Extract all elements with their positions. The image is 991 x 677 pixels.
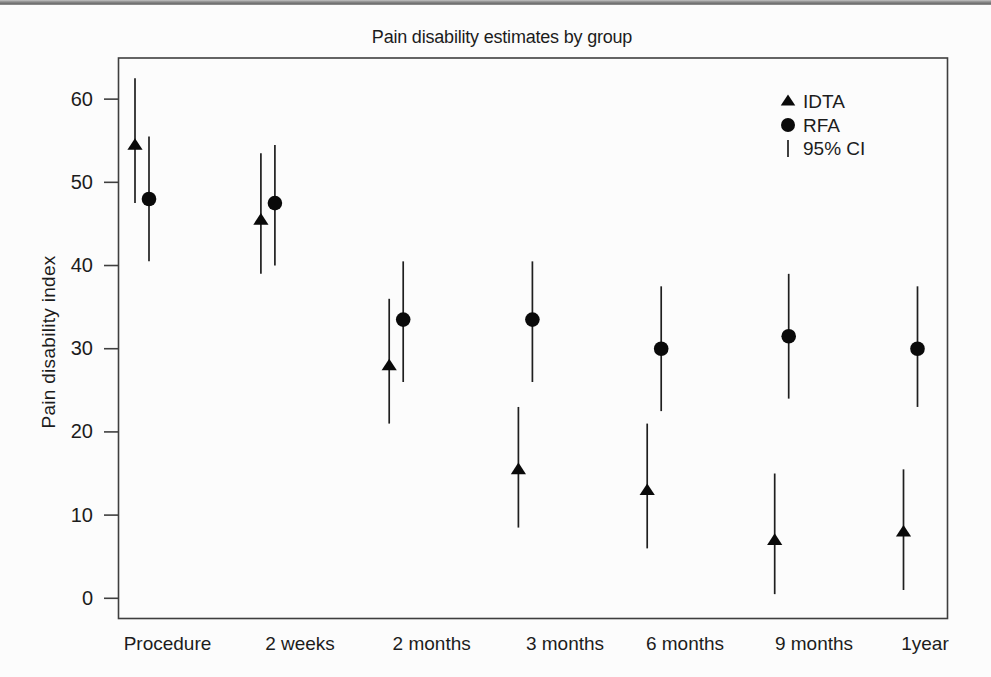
y-axis-tick-label: 10 bbox=[71, 504, 93, 526]
x-axis-label: Procedure bbox=[124, 633, 212, 654]
y-axis-tick-label: 20 bbox=[71, 420, 93, 442]
x-axis-label: 2 weeks bbox=[265, 633, 335, 654]
legend-circle-icon bbox=[781, 118, 795, 132]
idta-marker-triangle bbox=[511, 463, 526, 475]
x-axis-label: 6 months bbox=[646, 633, 724, 654]
legend-label: 95% CI bbox=[803, 138, 865, 159]
y-axis-tick-label: 50 bbox=[71, 171, 93, 193]
y-axis-tick-label: 60 bbox=[71, 88, 93, 110]
rfa-marker-circle bbox=[268, 196, 283, 211]
legend-label: IDTA bbox=[803, 91, 845, 112]
legend-label: RFA bbox=[803, 115, 840, 136]
rfa-marker-circle bbox=[525, 312, 540, 327]
y-axis-tick-label: 40 bbox=[71, 254, 93, 276]
idta-marker-triangle bbox=[640, 483, 655, 495]
chart-canvas: 0102030405060Procedure2 weeks2 months3 m… bbox=[0, 0, 991, 677]
x-axis-label: 1year bbox=[901, 633, 949, 654]
x-axis-label: 2 months bbox=[393, 633, 471, 654]
figure-page: Pain disability estimates by group Pain … bbox=[0, 0, 991, 677]
idta-marker-triangle bbox=[253, 213, 268, 225]
y-axis-tick-label: 0 bbox=[82, 587, 93, 609]
rfa-marker-circle bbox=[142, 192, 157, 207]
rfa-marker-circle bbox=[781, 329, 796, 344]
idta-marker-triangle bbox=[896, 525, 911, 537]
x-axis-label: 9 months bbox=[775, 633, 853, 654]
idta-marker-triangle bbox=[127, 138, 142, 150]
rfa-marker-circle bbox=[396, 312, 411, 327]
x-axis-label: 3 months bbox=[526, 633, 604, 654]
idta-marker-triangle bbox=[767, 533, 782, 545]
legend-triangle-icon bbox=[781, 95, 796, 106]
y-axis-tick-label: 30 bbox=[71, 337, 93, 359]
rfa-marker-circle bbox=[654, 341, 669, 356]
idta-marker-triangle bbox=[382, 359, 397, 371]
rfa-marker-circle bbox=[910, 341, 925, 356]
